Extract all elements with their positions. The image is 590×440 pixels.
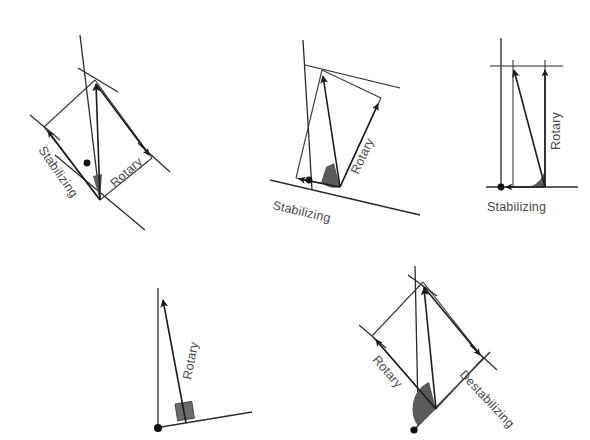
diagram-svg: Stabilizing Rotary xyxy=(0,0,590,440)
destabilizing-component-vector xyxy=(423,286,480,355)
rotary-component-vector xyxy=(96,84,149,155)
pivot-dot xyxy=(410,426,417,433)
rotary-label: Rotary xyxy=(348,135,377,176)
rotary-label: Rotary xyxy=(370,353,406,391)
stabilizing-tip-tick xyxy=(30,115,60,140)
resultant-tip-tick xyxy=(78,68,118,92)
stabilizing-label: Stabilizing xyxy=(36,144,81,201)
figure-top-right: Rotary Stabilizing xyxy=(486,38,578,214)
figure-top-center: Stabilizing Rotary xyxy=(270,40,420,225)
pivot-dot xyxy=(306,177,313,184)
rotary-label: Rotary xyxy=(108,154,146,190)
parallelogram-side-top xyxy=(44,80,95,127)
stabilizing-label: Stabilizing xyxy=(271,198,332,225)
pivot-dot xyxy=(154,424,162,432)
figure-bottom-right: Rotary Destabilizing xyxy=(359,266,517,434)
figure-bottom-left: Rotary xyxy=(154,288,252,432)
muscle-force-vector xyxy=(514,70,545,187)
joint-axis xyxy=(155,412,252,428)
diagram-canvas: Stabilizing Rotary xyxy=(0,0,590,440)
parallelogram-side-left xyxy=(296,70,322,178)
pivot-dot xyxy=(84,160,91,167)
pivot-dot xyxy=(498,184,505,191)
stabilizing-label: Stabilizing xyxy=(487,200,546,214)
rotary-tip-tick xyxy=(359,325,386,348)
figure-top-left: Stabilizing Rotary xyxy=(30,35,170,230)
parallelogram-side-top xyxy=(322,70,381,98)
rotary-label: Rotary xyxy=(180,340,201,381)
destabilizing-label: Destabilizing xyxy=(457,367,517,430)
rotary-label: Rotary xyxy=(549,111,563,150)
